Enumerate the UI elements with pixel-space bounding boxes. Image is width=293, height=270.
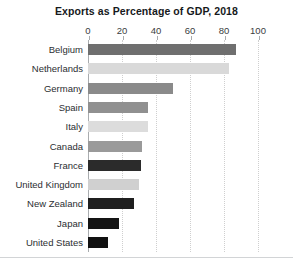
category-label-united-states: United States [0, 233, 83, 252]
plot-area [88, 40, 258, 252]
bar-france[interactable] [88, 160, 141, 171]
bar-rows [88, 40, 258, 252]
x-axis-tick-labels: 020406080100 [88, 25, 258, 38]
footer-divider [0, 257, 293, 258]
x-tick-label-0: 0 [85, 25, 90, 36]
bar-row[interactable] [88, 40, 258, 59]
bar-row[interactable] [88, 156, 258, 175]
bar-row[interactable] [88, 194, 258, 213]
category-axis-labels: BelgiumNetherlandsGermanySpainItalyCanad… [0, 40, 83, 252]
bar-row[interactable] [88, 214, 258, 233]
x-tick-label-20: 20 [117, 25, 128, 36]
bar-netherlands[interactable] [88, 63, 229, 74]
bar-row[interactable] [88, 233, 258, 252]
bar-germany[interactable] [88, 83, 173, 94]
x-tick-label-40: 40 [151, 25, 162, 36]
category-label-united-kingdom: United Kingdom [0, 175, 83, 194]
bar-row[interactable] [88, 175, 258, 194]
tickmark-100 [259, 36, 260, 40]
bar-japan[interactable] [88, 218, 119, 229]
category-label-new-zealand: New Zealand [0, 194, 83, 213]
bar-row[interactable] [88, 98, 258, 117]
x-tick-label-60: 60 [185, 25, 196, 36]
x-tick-label-100: 100 [250, 25, 266, 36]
bar-row[interactable] [88, 79, 258, 98]
bar-united-kingdom[interactable] [88, 179, 139, 190]
bar-canada[interactable] [88, 141, 142, 152]
category-label-japan: Japan [0, 214, 83, 233]
bar-row[interactable] [88, 137, 258, 156]
category-label-germany: Germany [0, 79, 83, 98]
bar-italy[interactable] [88, 121, 148, 132]
category-label-netherlands: Netherlands [0, 59, 83, 78]
chart-title: Exports as Percentage of GDP, 2018 [0, 5, 293, 17]
bar-row[interactable] [88, 117, 258, 136]
bar-belgium[interactable] [88, 44, 236, 55]
chart-container: Exports as Percentage of GDP, 2018 02040… [0, 0, 293, 270]
category-label-canada: Canada [0, 137, 83, 156]
category-label-belgium: Belgium [0, 40, 83, 59]
bar-new-zealand[interactable] [88, 198, 134, 209]
category-label-spain: Spain [0, 98, 83, 117]
x-tick-label-80: 80 [219, 25, 230, 36]
category-label-italy: Italy [0, 117, 83, 136]
bar-spain[interactable] [88, 102, 148, 113]
gridline-100 [258, 40, 260, 252]
category-label-france: France [0, 156, 83, 175]
bar-united-states[interactable] [88, 237, 108, 248]
bar-row[interactable] [88, 59, 258, 78]
